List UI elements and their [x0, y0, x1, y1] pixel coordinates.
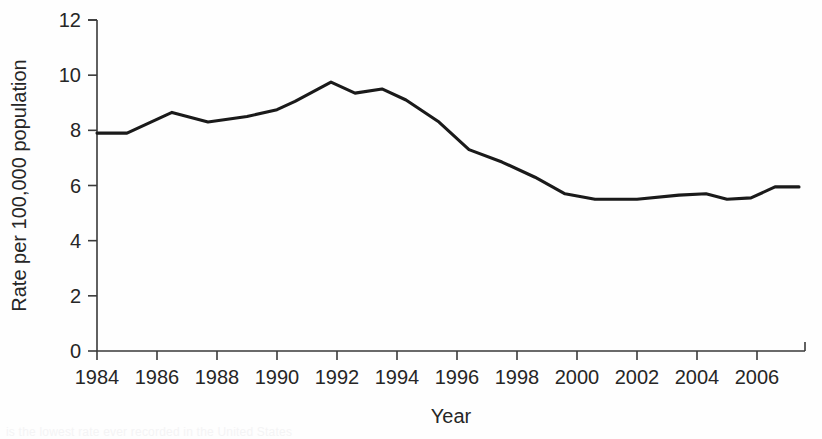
- x-tick-label: 1998: [495, 366, 540, 388]
- x-tick-label: 1984: [75, 366, 120, 388]
- axis-spines: [97, 20, 805, 351]
- x-tick-label: 2000: [555, 366, 600, 388]
- x-tick-label: 1990: [255, 366, 300, 388]
- y-tick-label: 6: [70, 175, 81, 197]
- y-tick-label: 12: [59, 9, 81, 31]
- chart-figure: 0246810121984198619881990199219941996199…: [0, 0, 822, 439]
- y-tick-label: 8: [70, 119, 81, 141]
- y-tick-label: 10: [59, 64, 81, 86]
- x-tick-label: 1992: [315, 366, 360, 388]
- x-axis-title: Year: [431, 405, 472, 427]
- y-axis-title: Rate per 100,000 population: [8, 59, 30, 311]
- x-tick-label: 2006: [735, 366, 780, 388]
- x-tick-label: 2004: [675, 366, 720, 388]
- figure-caption-text: is the lowest rate ever recorded in the …: [0, 426, 822, 439]
- x-tick-label: 1986: [135, 366, 180, 388]
- y-tick-label: 0: [70, 340, 81, 362]
- line-chart: 0246810121984198619881990199219941996199…: [0, 0, 822, 439]
- figure-caption-strip: is the lowest rate ever recorded in the …: [0, 426, 822, 439]
- x-tick-label: 2002: [615, 366, 660, 388]
- y-tick-label: 4: [70, 230, 81, 252]
- x-tick-label: 1996: [435, 366, 480, 388]
- x-tick-label: 1994: [375, 366, 420, 388]
- data-series-line-0: [97, 82, 799, 199]
- y-tick-label: 2: [70, 285, 81, 307]
- x-tick-label: 1988: [195, 366, 240, 388]
